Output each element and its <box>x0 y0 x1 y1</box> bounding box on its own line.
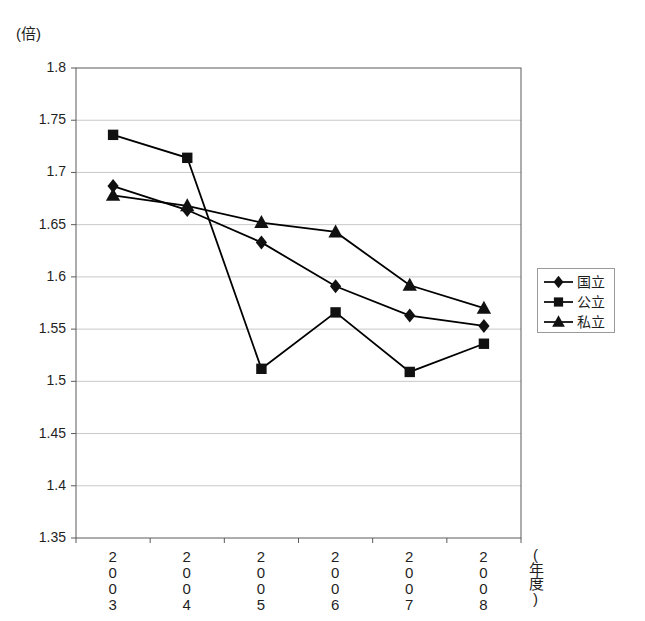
y-tick-label: 1.4 <box>14 477 66 493</box>
x-tick-label: 2008 <box>475 548 492 612</box>
x-tick-label: 2006 <box>327 548 344 612</box>
series-2 <box>108 130 489 377</box>
series-3 <box>106 188 491 314</box>
series-line <box>113 135 484 372</box>
y-tick-label: 1.7 <box>14 163 66 179</box>
y-tick-label: 1.8 <box>14 59 66 75</box>
y-tick-label: 1.65 <box>14 216 66 232</box>
legend-item-3[interactable]: 私立 <box>538 312 614 332</box>
y-tick-label: 1.45 <box>14 425 66 441</box>
chart-legend: 国立公立私立 <box>537 268 615 333</box>
x-axis-ticks <box>76 538 521 543</box>
series-line <box>113 195 484 308</box>
y-tick-label: 1.75 <box>14 111 66 127</box>
x-tick-label: 2007 <box>401 548 418 612</box>
legend-item-label: 私立 <box>575 315 605 329</box>
data-point-marker <box>405 367 415 377</box>
y-tick-label: 1.6 <box>14 268 66 284</box>
data-point-marker <box>182 153 192 163</box>
series-line <box>113 186 484 326</box>
data-point-marker <box>106 188 120 201</box>
data-point-marker <box>256 235 267 249</box>
data-point-marker <box>403 278 417 291</box>
data-point-marker <box>256 364 266 374</box>
data-point-marker <box>330 279 341 293</box>
line-chart: (倍) 1.81.751.71.651.61.551.51.451.41.35 … <box>0 0 645 621</box>
data-point-marker <box>478 319 489 333</box>
y-tick-label: 1.35 <box>14 529 66 545</box>
legend-marker-square-icon <box>542 293 575 311</box>
data-point-marker <box>404 309 415 323</box>
y-tick-label: 1.5 <box>14 372 66 388</box>
legend-item-label: 公立 <box>575 295 605 309</box>
legend-item-2[interactable]: 公立 <box>538 292 614 312</box>
legend-item-1[interactable]: 国立 <box>538 272 614 292</box>
x-axis-title: (年度) <box>525 546 546 606</box>
legend-marker-triangle-icon <box>542 313 575 331</box>
data-series-layer <box>106 130 491 377</box>
data-point-marker <box>108 130 118 140</box>
x-tick-label: 2003 <box>104 548 121 612</box>
y-tick-label: 1.55 <box>14 320 66 336</box>
data-point-marker <box>479 339 489 349</box>
x-tick-label: 2004 <box>178 548 195 612</box>
gridlines <box>76 120 521 486</box>
legend-item-label: 国立 <box>575 275 605 289</box>
data-point-marker <box>330 307 340 317</box>
y-axis-ticks <box>71 68 76 538</box>
x-tick-label: 2005 <box>252 548 269 612</box>
legend-marker-diamond-icon <box>542 273 575 291</box>
plot-frame <box>76 68 521 538</box>
